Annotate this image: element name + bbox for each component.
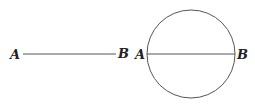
diameter-label-b: B [236,47,248,62]
diagram-canvas: A B A B [0,0,255,108]
diameter-label-a: A [133,47,145,62]
circle-with-diameter: A B [133,10,248,98]
segment-label-a: A [8,47,20,62]
segment-label-b: B [117,46,129,61]
segment-ab: A B [8,46,129,62]
